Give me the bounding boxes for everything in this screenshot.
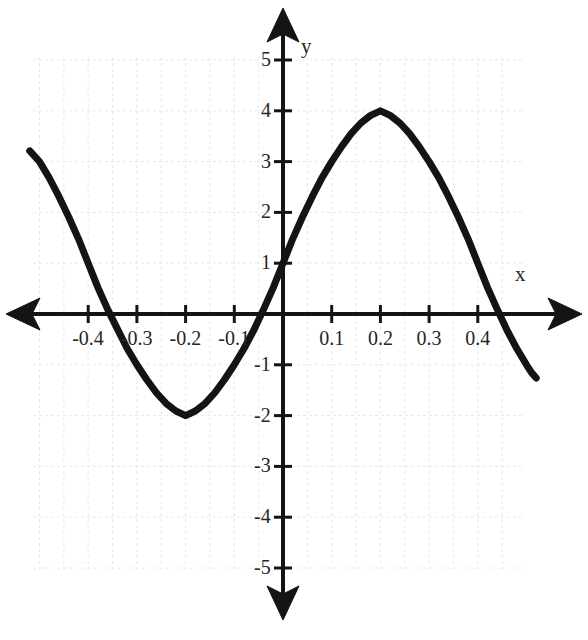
y-tick-label: 3 — [261, 151, 271, 171]
y-tick-label: -1 — [254, 354, 271, 374]
x-tick-label: 0.1 — [319, 328, 344, 348]
x-tick-label: -0.4 — [72, 328, 104, 348]
plot-canvas — [0, 0, 588, 640]
y-tick-label: 5 — [261, 49, 271, 69]
x-axis-label: x — [515, 264, 526, 285]
x-tick-label: -0.1 — [218, 328, 250, 348]
x-tick-label: -0.2 — [170, 328, 202, 348]
y-tick-label: -3 — [254, 455, 271, 475]
y-tick-label: 1 — [261, 252, 271, 272]
x-tick-label: 0.4 — [465, 328, 490, 348]
y-axis-label: y — [301, 36, 312, 57]
bottom-margin — [0, 624, 588, 640]
chart-figure: -0.4-0.3-0.2-0.10.10.20.30.454321-1-2-3-… — [0, 0, 588, 640]
x-tick-label: 0.3 — [417, 328, 442, 348]
y-tick-label: 2 — [261, 201, 271, 221]
x-tick-label: -0.3 — [121, 328, 153, 348]
y-tick-label: -4 — [254, 506, 271, 526]
y-tick-label: -5 — [254, 557, 271, 577]
y-tick-label: -2 — [254, 405, 271, 425]
x-tick-label: 0.2 — [368, 328, 393, 348]
y-tick-label: 4 — [261, 100, 271, 120]
